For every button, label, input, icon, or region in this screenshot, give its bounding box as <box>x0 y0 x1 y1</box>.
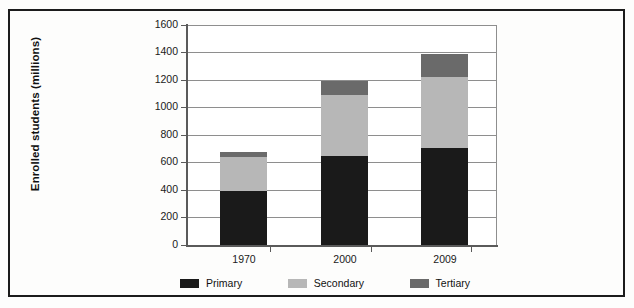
x-tick-mark <box>371 247 372 252</box>
legend-item-tertiary[interactable]: Tertiary <box>410 277 470 289</box>
x-axis-line <box>186 245 498 247</box>
bar-2000[interactable] <box>321 25 368 245</box>
x-tick-label-1970: 1970 <box>209 253 279 265</box>
y-axis-title: Enrolled students (millions) <box>29 19 41 209</box>
y-tick-label: 1200 <box>138 74 178 85</box>
y-tick-label-group: 0 <box>130 239 178 251</box>
x-tick-mark <box>471 247 472 252</box>
bar-segment-primary[interactable] <box>321 156 368 245</box>
y-axis-line <box>186 24 188 247</box>
y-tick-label: 600 <box>138 156 178 167</box>
legend: Primary Secondary Tertiary <box>180 275 470 291</box>
y-tick-label-group: 1200 <box>130 74 178 86</box>
y-tick-label-group: 1000 <box>130 101 178 113</box>
y-tick-label-group: 1400 <box>130 46 178 58</box>
y-tick-label: 0 <box>138 239 178 250</box>
bar-segment-primary[interactable] <box>220 191 267 245</box>
legend-item-primary[interactable]: Primary <box>180 277 242 289</box>
bar-segment-secondary[interactable] <box>220 157 267 191</box>
y-tick-label: 200 <box>138 211 178 222</box>
legend-swatch-icon <box>180 279 199 288</box>
y-tick-label-group: 1600 <box>130 19 178 31</box>
y-tick-label-group: 600 <box>130 156 178 168</box>
y-tick-label-group: 400 <box>130 184 178 196</box>
x-tick-mark <box>270 247 271 252</box>
legend-swatch-icon <box>288 279 307 288</box>
y-tick-label: 1400 <box>138 46 178 57</box>
legend-swatch-icon <box>410 279 429 288</box>
y-tick-label-group: 200 <box>130 211 178 223</box>
bar-segment-secondary[interactable] <box>421 77 468 147</box>
bar-1970[interactable] <box>220 25 267 245</box>
legend-label: Tertiary <box>436 277 470 289</box>
plot-area <box>187 25 497 246</box>
y-tick-label-group: 800 <box>130 129 178 141</box>
legend-label: Secondary <box>314 277 364 289</box>
x-tick-label-2009: 2009 <box>410 253 480 265</box>
chart-figure: Enrolled students (millions) 1600 1400 1… <box>0 0 634 308</box>
legend-label: Primary <box>206 277 242 289</box>
bar-segment-primary[interactable] <box>421 148 468 245</box>
bar-segment-tertiary[interactable] <box>421 54 468 77</box>
legend-item-secondary[interactable]: Secondary <box>288 277 364 289</box>
y-tick-label: 1000 <box>138 101 178 112</box>
y-tick-label: 800 <box>138 129 178 140</box>
bar-segment-tertiary[interactable] <box>321 81 368 95</box>
bar-segment-secondary[interactable] <box>321 95 368 155</box>
y-tick-label: 400 <box>138 184 178 195</box>
x-tick-label-2000: 2000 <box>310 253 380 265</box>
y-tick-label: 1600 <box>138 19 178 30</box>
bar-2009[interactable] <box>421 25 468 245</box>
